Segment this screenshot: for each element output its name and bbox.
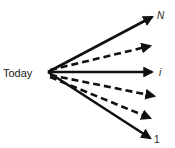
scenario-fan-diagram: Today N i 1	[0, 0, 175, 148]
arrow-1	[48, 72, 150, 138]
label-N: N	[157, 10, 165, 21]
arrow-dashed-upper	[50, 46, 150, 70]
arrow-dashed-mid	[50, 75, 154, 96]
label-1: 1	[154, 134, 160, 145]
origin-label-today: Today	[3, 67, 33, 79]
label-i: i	[159, 67, 162, 78]
arrow-N	[48, 17, 152, 72]
